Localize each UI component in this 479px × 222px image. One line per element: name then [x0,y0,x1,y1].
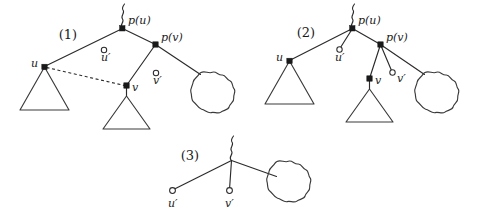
label-u: u [276,51,283,64]
subtree-triangle-under-v [103,96,150,129]
edge-pu-u [45,29,123,67]
figure-container: (1) p(u) p(v) u v u′ v′ [0,0,479,222]
subtree-triangle-under-v [346,89,393,122]
subtree-triangle-under-u [265,61,314,104]
label-u-prime: u′ [168,197,178,210]
label-pu: p(u) [358,14,381,27]
cloud-right [267,161,311,202]
label-u-prime: u′ [335,51,345,64]
node-u [42,64,47,69]
node-v-prime [390,70,395,75]
label-u: u [31,57,38,70]
edge-pu-pv [353,29,381,45]
panel-1-number: (1) [59,27,77,42]
node-u-prime [170,188,176,194]
cloud-right [191,72,235,113]
node-pu [120,26,125,31]
edge-pu-pv [123,29,156,45]
panel-1: (1) p(u) p(v) u v u′ v′ [20,4,235,129]
panel-2: (2) p(u) p(v) u v u′ v′ [265,4,459,122]
top-squiggle-icon [230,136,233,160]
edge-root-uprime [174,161,232,190]
label-pu: p(u) [128,14,151,27]
top-squiggle-icon [351,4,354,28]
top-squiggle-icon [121,4,124,28]
node-v-prime [227,188,233,194]
label-v: v [132,81,139,94]
edge-pv-cloud [156,45,201,75]
node-u [287,58,292,63]
node-pv [153,42,158,47]
panel-2-number: (2) [297,25,315,40]
subtree-triangle-under-u [20,67,69,110]
label-v-prime: v′ [225,197,234,210]
label-u-prime: u′ [101,51,111,64]
panel-3: (3) u′ v′ [168,136,311,210]
edge-pv-v [127,45,156,86]
label-v-prime: v′ [153,74,162,87]
label-pv: p(v) [161,31,183,44]
label-v-prime: v′ [397,72,406,85]
label-pv: p(v) [386,31,408,44]
cloud-right [415,72,459,113]
tree-transformation-figure: (1) p(u) p(v) u v u′ v′ [0,0,479,222]
label-v: v [375,74,382,87]
node-pv [378,42,383,47]
edge-u-v-dashed [47,68,125,86]
panel-3-number: (3) [181,148,199,163]
node-pu [350,26,355,31]
edge-root-vprime [230,161,232,190]
node-v [367,76,372,81]
node-v [124,83,129,88]
